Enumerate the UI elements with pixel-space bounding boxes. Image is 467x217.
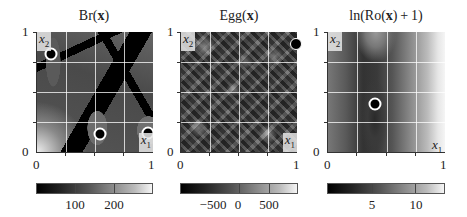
panel-title-branin: Br(x) [36,8,152,24]
colorbar-tick: 200 [104,197,124,213]
y-tick-1: 1 [22,24,29,40]
heatmap-eggholder: x2 x1 [180,32,297,153]
y-tick-0: 0 [167,144,174,160]
heatmap-branin: x2 x1 [36,32,153,153]
panel-title-eggholder: Egg(x) [181,8,297,24]
colorbar-rosenbrock [327,183,445,194]
x-axis-label: x1 [283,133,297,152]
x-axis-label: x1 [139,133,153,152]
colorbar-eggholder [180,183,298,194]
colorbar-tick: 500 [259,197,279,213]
minimum-marker [368,98,381,111]
x-tick-1: 1 [293,157,300,173]
heatmap-rosenbrock: x2 [327,32,445,153]
minimum-marker [290,38,302,50]
y-tick-0: 0 [313,144,320,160]
x-axis-label: x1 [432,138,442,157]
colorbar-tick: 10 [410,197,423,213]
y-axis-label: x2 [181,32,195,51]
y-axis-label: x2 [328,32,342,51]
colorbar-tick: 0 [235,197,242,213]
colorbar-branin [36,183,153,194]
x-tick-0: 0 [324,157,331,173]
y-tick-0: 0 [22,144,29,160]
y-tick-1: 1 [167,24,174,40]
minimum-marker [93,128,106,141]
colorbar-tick: 5 [369,197,376,213]
colorbar-tick: −500 [200,197,227,213]
x-tick-0: 0 [177,157,184,173]
y-axis-label: x2 [37,32,51,51]
panel-title-rosenbrock: ln(Ro(x) + 1) [316,8,456,24]
colorbar-tick: 100 [65,197,85,213]
x-tick-1: 1 [440,157,447,173]
y-tick-1: 1 [313,24,320,40]
x-tick-0: 0 [33,157,40,173]
x-tick-1: 1 [148,157,155,173]
